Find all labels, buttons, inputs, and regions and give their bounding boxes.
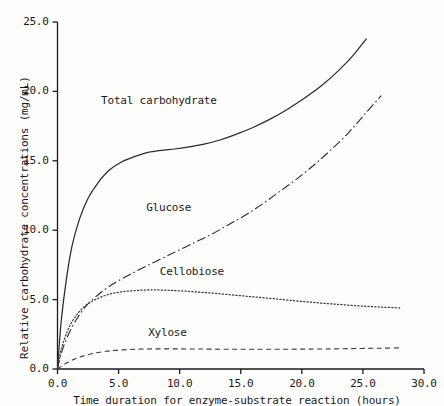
x-tick-label: 10.0	[150, 377, 210, 390]
series-line-total-carbohydrate	[58, 39, 367, 369]
x-tick-label: 5.0	[89, 377, 149, 390]
x-axis-title: Time duration for enzyme-substrate react…	[0, 394, 444, 406]
series-label-glucose: Glucose	[146, 201, 191, 214]
x-tick-label: 20.0	[272, 377, 332, 390]
x-tick-label: 25.0	[333, 377, 393, 390]
y-tick-label: 0.0	[0, 362, 49, 375]
x-tick-label: 0.0	[28, 377, 88, 390]
chart-container: 0.05.010.015.020.025.0 0.05.010.015.020.…	[0, 0, 444, 406]
axis-lines	[53, 22, 425, 374]
chart-plot-area	[0, 0, 444, 406]
x-tick-label: 30.0	[394, 377, 444, 390]
series-label-total-carbohydrate: Total carbohydrate	[101, 94, 217, 107]
x-tick-label: 15.0	[211, 377, 271, 390]
series-label-xylose: Xylose	[148, 326, 187, 339]
y-axis-title: Relative carbohydrate concentrations (mg…	[18, 76, 31, 359]
y-tick-label: 25.0	[0, 15, 49, 28]
series-lines	[58, 39, 400, 369]
series-line-glucose	[58, 96, 382, 369]
series-line-xylose	[58, 348, 400, 369]
series-line-cellobiose	[58, 290, 400, 369]
series-label-cellobiose: Cellobiose	[160, 265, 224, 278]
